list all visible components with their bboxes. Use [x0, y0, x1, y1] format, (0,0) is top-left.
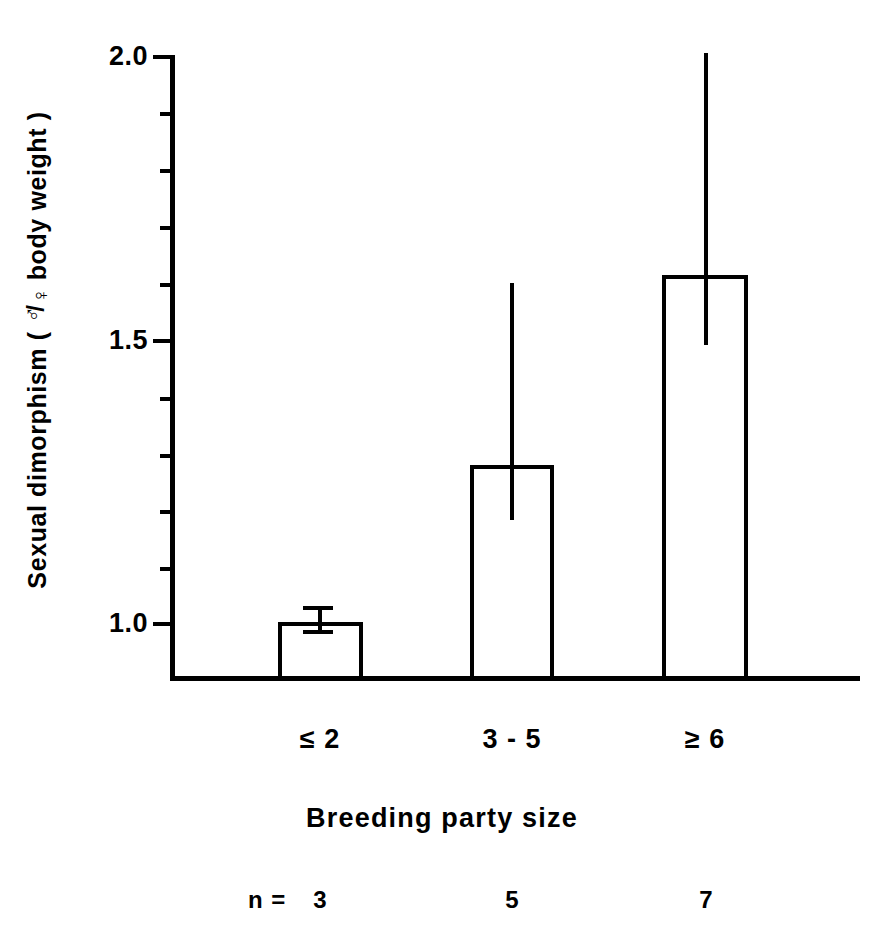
y-tick-minor-1-7 [160, 226, 171, 230]
error-bar-category-1 [510, 283, 514, 520]
y-tick-minor-1-4 [160, 397, 171, 401]
sample-size-category-0: 3 [290, 888, 350, 912]
y-tick-major-2-0 [153, 55, 171, 59]
y-tick-label-1-5: 1.5 [86, 327, 148, 354]
y-tick-minor-1-9 [160, 112, 171, 116]
y-tick-major-1-0 [153, 622, 171, 626]
error-bar-category-2 [704, 53, 708, 345]
error-cap-lower-category-0 [303, 630, 333, 634]
sample-size-prefix-label: n = [248, 888, 286, 912]
y-axis-tick-labels: 2.0 1.5 1.0 [80, 0, 148, 700]
y-tick-major-1-5 [153, 339, 171, 343]
sample-size-category-2: 7 [676, 888, 736, 912]
sample-size-category-1: 5 [482, 888, 542, 912]
y-tick-minor-1-2 [160, 510, 171, 514]
error-cap-upper-category-0 [303, 606, 333, 610]
y-tick-minor-1-1 [160, 567, 171, 571]
x-tick-label-category-1: 3 - 5 [452, 726, 572, 753]
y-tick-minor-1-6 [160, 283, 171, 287]
x-tick-label-category-2: ≥ 6 [645, 726, 765, 753]
x-tick-label-category-0: ≤ 2 [260, 726, 380, 753]
chart-figure: Sexual dimorphism ( ♂ / ♀ body weight ) … [0, 0, 884, 936]
sample-size-row: n = 3 5 7 [0, 888, 884, 928]
y-tick-label-1-0: 1.0 [86, 610, 148, 637]
y-axis-line [170, 55, 175, 681]
y-tick-minor-1-8 [160, 169, 171, 173]
x-axis-title: Breeding party size [0, 805, 884, 832]
y-tick-label-2-0: 2.0 [86, 43, 148, 70]
plot-area: 2.0 1.5 1.0 ≤ 2 3 - 5 ≥ 6 [0, 0, 884, 700]
y-tick-minor-1-3 [160, 454, 171, 458]
